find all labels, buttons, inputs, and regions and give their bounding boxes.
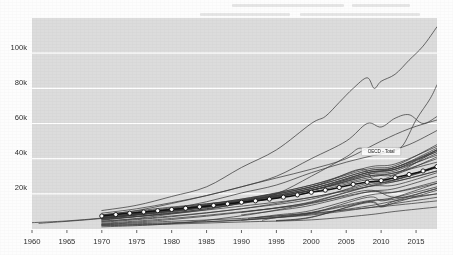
x-tick-label: 2005	[338, 237, 355, 246]
oecd-total-marker	[337, 185, 341, 189]
oecd-gdp-per-capita-line-chart: 20k40k60k80k100k 19601965197019751980198…	[0, 0, 453, 255]
x-tick-label: 1975	[128, 237, 145, 246]
x-axis-tick-marks	[32, 230, 416, 233]
oecd-total-marker	[239, 200, 243, 204]
x-tick-label: 2000	[303, 237, 320, 246]
x-tick-label: 1990	[233, 237, 250, 246]
oecd-total-label: OECD - Total	[368, 149, 395, 154]
oecd-total-marker	[184, 206, 188, 210]
x-tick-label: 1970	[93, 237, 110, 246]
oecd-total-marker	[309, 190, 313, 194]
oecd-total-marker	[267, 197, 271, 201]
oecd-total-marker	[421, 169, 425, 173]
oecd-total-marker	[170, 207, 174, 211]
oecd-total-marker	[351, 182, 355, 186]
x-axis-tick-labels: 1960196519701975198019851990199520002005…	[24, 237, 425, 246]
oecd-total-marker	[379, 179, 383, 183]
y-tick-label: 60k	[15, 113, 27, 122]
legend-annotation: OECD - Total	[362, 148, 401, 156]
oecd-total-marker	[128, 211, 132, 215]
oecd-total-marker	[100, 214, 104, 218]
oecd-total-marker	[323, 188, 327, 192]
oecd-total-marker	[253, 199, 257, 203]
oecd-total-marker	[142, 210, 146, 214]
x-tick-label: 2010	[373, 237, 390, 246]
oecd-total-marker	[211, 203, 215, 207]
oecd-total-marker	[407, 172, 411, 176]
oecd-total-marker	[114, 212, 118, 216]
x-tick-label: 2015	[408, 237, 425, 246]
oecd-total-marker	[365, 180, 369, 184]
chart-plot-area: 20k40k60k80k100k 19601965197019751980198…	[0, 0, 453, 255]
y-tick-label: 40k	[15, 148, 27, 157]
oecd-total-marker	[435, 164, 439, 168]
y-tick-label: 20k	[15, 183, 27, 192]
oecd-total-marker	[295, 193, 299, 197]
oecd-total-marker	[156, 209, 160, 213]
x-tick-label: 1985	[198, 237, 215, 246]
y-tick-label: 100k	[11, 43, 28, 52]
x-tick-label: 1965	[58, 237, 75, 246]
x-tick-label: 1960	[24, 237, 41, 246]
x-tick-label: 1995	[268, 237, 285, 246]
y-axis-tick-labels: 20k40k60k80k100k	[11, 43, 28, 193]
oecd-total-marker	[281, 195, 285, 199]
oecd-total-marker	[393, 176, 397, 180]
oecd-total-marker	[225, 202, 229, 206]
y-tick-label: 80k	[15, 78, 27, 87]
oecd-total-marker	[197, 205, 201, 209]
x-tick-label: 1980	[163, 237, 180, 246]
